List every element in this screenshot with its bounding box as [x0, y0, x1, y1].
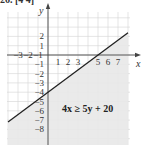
- y-tick-label: −8: [34, 124, 44, 134]
- x-tick-label: −2: [23, 50, 33, 60]
- y-tick-label: 1: [40, 41, 45, 51]
- x-tick-label: 2: [66, 57, 71, 67]
- inequality-annotation: 4x ≥ 5y + 20: [62, 103, 113, 114]
- x-tick-label: −3: [13, 50, 23, 60]
- x-tick-label: 1: [56, 57, 61, 67]
- x-axis-arrow-icon: [135, 53, 141, 57]
- x-tick-label: 6: [106, 57, 111, 67]
- y-axis-label: y: [38, 5, 44, 16]
- y-axis-arrow-icon: [46, 3, 50, 9]
- x-tick-label: 5: [96, 57, 101, 67]
- x-tick-label: 7: [116, 57, 121, 67]
- x-axis-label: x: [135, 58, 141, 69]
- inequality-graph: −3−2−112356721−1−2−3−4−5−6−7−8 x y 4x ≥ …: [0, 0, 145, 153]
- x-tick-label: 3: [76, 57, 81, 67]
